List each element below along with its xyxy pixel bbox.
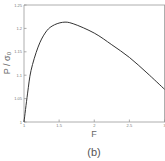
panel-label: (b) — [87, 146, 100, 158]
y-tick-label: 1.1 — [16, 73, 22, 78]
plot-frame — [24, 5, 165, 122]
chart: 11.051.11.151.21.25 11.522.53 P / σ₀ F (… — [0, 0, 165, 161]
data-curve — [24, 22, 165, 122]
x-tick-label: 1 — [23, 123, 26, 128]
y-tick-label: 1.05 — [14, 96, 23, 101]
x-axis-ticks: 11.522.53 — [23, 120, 165, 129]
x-axis-label: F — [91, 129, 97, 139]
y-tick-label: 1.25 — [14, 3, 23, 8]
y-axis-label: P / σ₀ — [2, 51, 12, 74]
y-tick-label: 1.15 — [14, 49, 23, 54]
x-tick-label: 1.5 — [56, 123, 62, 128]
y-axis-ticks: 11.051.11.151.21.25 — [14, 3, 26, 125]
y-tick-label: 1.2 — [16, 26, 22, 31]
x-tick-label: 2.5 — [127, 123, 133, 128]
x-tick-label: 2 — [93, 123, 96, 128]
x-tick-label: 3 — [163, 123, 165, 128]
